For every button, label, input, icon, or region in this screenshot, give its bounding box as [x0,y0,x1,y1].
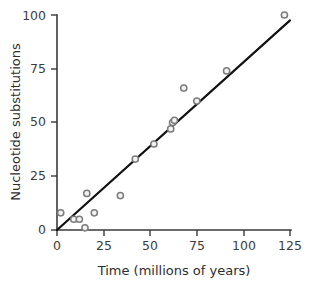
data-point [224,68,230,74]
plot-canvas: 0 25 50 75 100 125 0 25 50 75 100 Time (… [0,0,310,285]
x-tick-label-100: 100 [232,238,256,253]
x-tick-label-50: 50 [142,238,158,253]
x-tick-label-25: 25 [96,238,112,253]
x-tick-label-125: 125 [278,238,302,253]
data-point [181,85,187,91]
data-point [281,12,287,18]
data-point [91,210,97,216]
y-tick-label-25: 25 [30,168,46,183]
y-tick-marks [51,15,57,230]
x-axis-title: Time (millions of years) [97,263,251,278]
data-point [168,126,174,132]
data-point [82,225,88,231]
y-tick-label-0: 0 [38,222,46,237]
y-tick-label-50: 50 [30,114,46,129]
y-tick-labels: 0 25 50 75 100 [22,8,46,237]
x-tick-label-75: 75 [189,238,205,253]
data-point [171,117,177,123]
x-tick-marks [57,230,290,236]
x-tick-label-0: 0 [53,238,61,253]
data-point [84,190,90,196]
data-point [58,210,64,216]
y-axis-title: Nucleotide substitutions [8,43,23,201]
data-point [194,98,200,104]
data-point [76,216,82,222]
y-tick-label-100: 100 [22,8,46,23]
x-tick-labels: 0 25 50 75 100 125 [53,238,302,253]
y-tick-label-75: 75 [30,61,46,76]
data-point [151,141,157,147]
data-point [117,193,123,199]
scatter-plot-figure: 0 25 50 75 100 125 0 25 50 75 100 Time (… [0,0,310,285]
data-point [132,156,138,162]
